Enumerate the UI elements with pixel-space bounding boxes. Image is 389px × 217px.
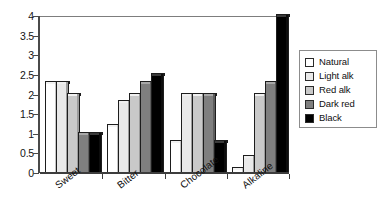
bar-side-face <box>286 14 289 174</box>
y-tick-mark <box>33 153 39 154</box>
bar <box>118 102 129 173</box>
bar <box>129 95 140 174</box>
y-tick-label: 4 <box>0 11 34 21</box>
bar-side-face <box>99 132 102 174</box>
y-tick-mark <box>33 16 39 17</box>
bar <box>170 142 181 173</box>
bar <box>254 95 265 174</box>
legend-item: Dark red <box>305 97 376 111</box>
legend-color-swatch <box>305 114 314 123</box>
legend-color-swatch <box>305 72 314 81</box>
y-tick-mark <box>33 55 39 56</box>
x-tick-mark <box>165 174 166 179</box>
y-tick-mark <box>33 134 39 135</box>
legend-color-swatch <box>305 100 314 109</box>
legend-label: Natural <box>319 57 349 67</box>
bar <box>181 95 192 174</box>
legend-color-swatch <box>305 58 314 67</box>
bar <box>276 16 287 173</box>
legend-item: Red alk <box>305 83 376 97</box>
y-tick-mark <box>33 36 39 37</box>
bar <box>265 83 276 173</box>
legend-item: Natural <box>305 55 376 69</box>
y-tick-mark <box>33 173 39 174</box>
x-tick-mark <box>102 174 103 179</box>
bar <box>45 83 56 173</box>
bar <box>140 83 151 173</box>
y-tick-label: 1.5 <box>0 109 34 119</box>
bar <box>56 83 67 173</box>
y-tick-label: 0.5 <box>0 148 34 158</box>
y-tick-label: 0 <box>0 168 34 178</box>
y-tick-label: 2.5 <box>0 70 34 80</box>
bar <box>151 75 162 173</box>
bar <box>192 95 203 174</box>
x-tick-mark <box>227 174 228 179</box>
y-axis-labels: 43.532.521.510.50 <box>0 8 34 178</box>
y-tick-mark <box>33 95 39 96</box>
bar-chart: 43.532.521.510.50 SweetBitterChocolateAl… <box>0 0 389 217</box>
y-tick-label: 3.5 <box>0 31 34 41</box>
legend-label: Dark red <box>319 99 355 109</box>
legend-item: Black <box>305 111 376 125</box>
bar-side-face <box>224 140 227 174</box>
bar <box>78 134 89 173</box>
bar <box>89 134 100 173</box>
chart-legend: NaturalLight alkRed alkDark redBlack <box>299 50 377 128</box>
legend-item: Light alk <box>305 69 376 83</box>
legend-color-swatch <box>305 86 314 95</box>
legend-label: Red alk <box>319 85 351 95</box>
bar <box>107 126 118 173</box>
y-tick-mark <box>33 114 39 115</box>
legend-label: Black <box>319 113 342 123</box>
y-tick-label: 2 <box>0 90 34 100</box>
y-tick-label: 1 <box>0 129 34 139</box>
x-tick-mark <box>289 174 290 179</box>
bar-side-face <box>161 73 164 174</box>
y-tick-mark <box>33 75 39 76</box>
y-tick-label: 3 <box>0 50 34 60</box>
legend-label: Light alk <box>319 71 353 81</box>
bar <box>67 95 78 174</box>
bar <box>243 157 254 173</box>
bars-layer <box>40 16 289 173</box>
